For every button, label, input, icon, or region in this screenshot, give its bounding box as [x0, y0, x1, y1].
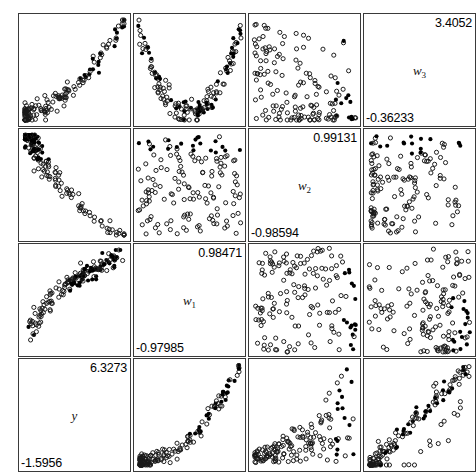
scatter-panel-r0-c2	[248, 13, 361, 127]
scatter-points	[249, 359, 360, 471]
axis-max-value: 6.3273	[90, 361, 127, 375]
scatter-points	[249, 14, 360, 126]
axis-max-value: 0.99131	[313, 131, 357, 145]
scatter-points	[364, 129, 475, 241]
variable-label-w2: w2	[249, 179, 360, 192]
scatter-points	[134, 359, 245, 471]
variable-label-w3: w3	[364, 64, 475, 77]
scatter-panel-r3-c2	[248, 358, 361, 472]
variable-label-y: y	[19, 409, 130, 422]
variable-label-w1: w1	[134, 294, 245, 307]
scatter-points	[19, 129, 130, 241]
scatter-panel-r2-c2	[248, 243, 361, 357]
axis-max-value: 3.4052	[435, 16, 472, 30]
scatter-points	[364, 244, 475, 356]
diagonal-panel-w3: 3.4052w3-0.36233	[363, 13, 476, 127]
scatter-points	[249, 244, 360, 356]
scatter-points	[364, 359, 475, 471]
scatter-panel-r2-c3	[363, 243, 476, 357]
scatter-points	[19, 14, 130, 126]
axis-min-value: -0.98594	[251, 226, 299, 240]
scatter-panel-r1-c0	[18, 128, 131, 242]
scatter-panel-r0-c0	[18, 13, 131, 127]
scatter-panel-r3-c1	[133, 358, 246, 472]
axis-max-value: 0.98471	[198, 246, 242, 260]
scatter-points	[134, 129, 245, 241]
scatter-panel-r1-c1	[133, 128, 246, 242]
scatter-points	[134, 14, 245, 126]
scatter-panel-r2-c0	[18, 243, 131, 357]
diagonal-panel-y: 6.3273y-1.5956	[18, 358, 131, 472]
axis-min-value: -1.5956	[21, 456, 62, 470]
axis-min-value: -0.97985	[136, 341, 184, 355]
scatter-panel-r3-c3	[363, 358, 476, 472]
diagonal-panel-w2: 0.99131w2-0.98594	[248, 128, 361, 242]
diagonal-panel-w1: 0.98471w1-0.97985	[133, 243, 246, 357]
axis-min-value: -0.36233	[366, 111, 414, 125]
scatter-panel-r1-c3	[363, 128, 476, 242]
scatter-points	[19, 244, 130, 356]
scatter-panel-r0-c1	[133, 13, 246, 127]
